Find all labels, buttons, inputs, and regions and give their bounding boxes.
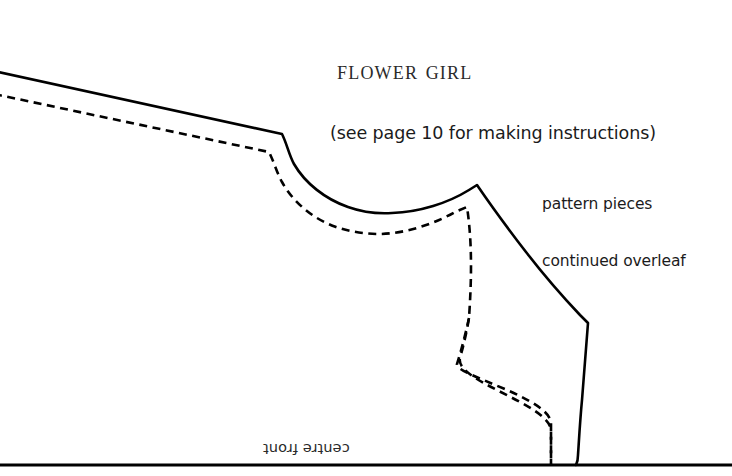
page-title: Flower Girl xyxy=(337,57,656,84)
pattern-sheet: Flower Girl (see page 10 for making inst… xyxy=(0,0,732,476)
overleaf-note-line-2: continued overleaf xyxy=(542,252,686,271)
overleaf-note-line-1: pattern pieces xyxy=(542,195,686,214)
stitching-line-side-seam xyxy=(455,352,560,412)
page-subtitle: (see page 10 for making instructions) xyxy=(330,123,656,144)
overleaf-note: pattern pieces continued overleaf xyxy=(542,157,686,309)
stitching-line-side-seam-dashes xyxy=(457,318,551,465)
centre-front-label: centre front xyxy=(263,440,350,458)
